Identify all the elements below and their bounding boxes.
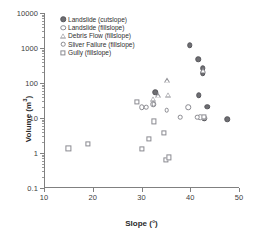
y-tick-minor: [42, 31, 44, 32]
x-tick: [239, 188, 240, 192]
data-point: [144, 105, 149, 110]
y-tick-minor: [42, 164, 44, 165]
y-tick-minor: [42, 156, 44, 157]
x-tick-label: 30: [137, 193, 146, 202]
y-tick-label: 100: [25, 79, 38, 88]
y-tick-minor: [42, 15, 44, 16]
x-tick-label: 40: [186, 193, 195, 202]
data-point: [66, 146, 71, 151]
y-tick-minor: [42, 72, 44, 73]
legend-marker-icon: [58, 49, 68, 57]
data-point: [187, 42, 193, 48]
x-axis-title: Slope (°): [44, 219, 239, 228]
x-tick-label: 50: [235, 193, 244, 202]
marker-glyph: [61, 42, 66, 47]
legend-marker-icon: [58, 24, 68, 32]
y-tick-minor: [42, 107, 44, 108]
y-tick-minor: [42, 94, 44, 95]
y-tick-label: 0.1: [27, 184, 38, 193]
legend-item-label: Gully (fillslope): [68, 49, 111, 56]
y-tick-label: 1: [34, 149, 38, 158]
data-point: [161, 131, 166, 136]
y-tick-minor: [42, 132, 44, 133]
legend-marker-icon: [58, 15, 68, 23]
legend-item[interactable]: Landslide (cutslope): [58, 15, 162, 23]
legend-marker-icon: [58, 40, 68, 48]
data-point: [178, 115, 183, 120]
data-point: [186, 105, 192, 111]
x-tick: [142, 188, 143, 192]
y-tick-minor: [42, 53, 44, 54]
legend-item[interactable]: Sliver Failure (fillslope): [58, 40, 162, 48]
y-tick-label: 10000: [17, 9, 38, 18]
y-tick-minor: [42, 97, 44, 98]
data-point: [135, 99, 140, 104]
data-point: [166, 155, 171, 160]
data-point: [195, 115, 200, 120]
data-point: [165, 92, 171, 97]
marker-glyph: [60, 16, 66, 22]
y-tick-minor: [42, 158, 44, 159]
legend: Landslide (cutslope)Landslide (fillslope…: [58, 15, 162, 57]
x-tick: [93, 188, 94, 192]
marker-glyph: [60, 25, 66, 31]
x-tick-label: 20: [88, 193, 97, 202]
y-tick-minor: [42, 120, 44, 121]
data-point: [85, 141, 90, 146]
data-point: [147, 136, 152, 141]
data-point: [195, 56, 201, 62]
x-tick-label: 10: [40, 193, 49, 202]
y-tick-minor: [42, 21, 44, 22]
legend-marker-icon: [58, 32, 68, 40]
y-tick-minor: [42, 51, 44, 52]
data-point: [201, 115, 206, 120]
legend-item-label: Debris Flow (fillslope): [68, 32, 131, 39]
y-tick-minor: [42, 177, 44, 178]
y-tick-minor: [42, 66, 44, 67]
data-point: [165, 108, 170, 113]
y-tick-minor: [42, 155, 44, 156]
data-point: [196, 92, 202, 98]
data-point: [139, 146, 144, 151]
y-tick-minor: [42, 101, 44, 102]
data-point: [155, 93, 161, 98]
y-tick-minor: [42, 123, 44, 124]
x-tick: [44, 188, 45, 192]
y-tick-minor: [42, 85, 44, 86]
y-tick-minor: [42, 126, 44, 127]
data-point: [205, 104, 211, 110]
data-point: [151, 102, 156, 107]
y-tick-minor: [42, 37, 44, 38]
data-point: [151, 119, 156, 124]
marker-glyph: [60, 33, 66, 38]
legend-item[interactable]: Landslide (fillslope): [58, 23, 162, 31]
y-tick-minor: [42, 59, 44, 60]
y-axis-line: [44, 13, 45, 188]
y-tick-minor: [42, 161, 44, 162]
y-tick-minor: [42, 56, 44, 57]
y-tick-minor: [42, 129, 44, 130]
marker-glyph: [60, 50, 65, 55]
y-tick-minor: [42, 88, 44, 89]
y-tick-minor: [42, 62, 44, 63]
y-tick-minor: [42, 16, 44, 17]
y-tick-minor: [42, 121, 44, 122]
legend-item[interactable]: Debris Flow (fillslope): [58, 32, 162, 40]
legend-item-label: Landslide (fillslope): [68, 24, 124, 31]
y-tick-minor: [42, 136, 44, 137]
data-point: [200, 68, 206, 73]
legend-item-label: Landslide (cutslope): [68, 16, 127, 23]
y-tick-minor: [42, 91, 44, 92]
y-tick-label: 1000: [21, 44, 38, 53]
y-tick-label: 10: [29, 114, 38, 123]
y-tick-minor: [42, 171, 44, 172]
data-point: [225, 116, 231, 122]
y-tick-minor: [42, 50, 44, 51]
y-tick-minor: [42, 142, 44, 143]
y-tick-minor: [42, 18, 44, 19]
y-tick-minor: [42, 24, 44, 25]
legend-item-label: Sliver Failure (fillslope): [68, 41, 135, 48]
y-tick-minor: [42, 27, 44, 28]
scatter-plot-figure: Volume (m3) 0.1110100100010000 102030405…: [0, 0, 259, 237]
legend-item[interactable]: Gully (fillslope): [58, 49, 162, 57]
